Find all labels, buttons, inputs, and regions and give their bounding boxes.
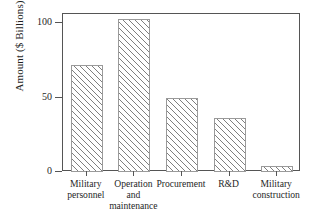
x-tick-label-line: personnel — [59, 189, 113, 200]
x-tick-label-line: Operation — [107, 178, 161, 189]
y-tick-mark — [55, 171, 62, 172]
y-axis-title: Amount ($ Billions) — [11, 0, 27, 111]
x-tick-mark — [276, 171, 277, 176]
y-tick-mark — [55, 97, 62, 98]
x-tick-label-line: Procurement — [154, 178, 208, 189]
x-tick-label: Operationandmaintenance — [107, 178, 161, 211]
x-tick-label-line: R&D — [202, 178, 256, 189]
x-tick-label: Procurement — [154, 178, 208, 189]
x-tick-label: R&D — [202, 178, 256, 189]
x-tick-label-line: Military — [249, 178, 303, 189]
bar — [261, 166, 293, 172]
y-tick-label: 100 — [37, 17, 52, 27]
y-tick-mark — [55, 22, 62, 23]
x-tick-label-line: construction — [249, 189, 303, 200]
x-tick-mark — [86, 171, 87, 176]
bar — [118, 19, 150, 172]
bar — [214, 118, 246, 172]
bar — [71, 65, 103, 172]
y-tick-label: 50 — [42, 92, 52, 102]
x-tick-mark — [133, 171, 134, 176]
x-tick-label-line: Military — [59, 178, 113, 189]
x-tick-label-line: and — [107, 189, 161, 200]
x-tick-label-line: maintenance — [107, 200, 161, 211]
bar — [166, 98, 198, 173]
bar-chart: Amount ($ Billions) 050100 Militaryperso… — [0, 0, 318, 218]
x-tick-label: Militarypersonnel — [59, 178, 113, 200]
plot-area — [62, 13, 300, 171]
x-tick-label: Militaryconstruction — [249, 178, 303, 200]
y-tick-label: 0 — [47, 166, 52, 176]
x-tick-mark — [229, 171, 230, 176]
x-tick-mark — [181, 171, 182, 176]
